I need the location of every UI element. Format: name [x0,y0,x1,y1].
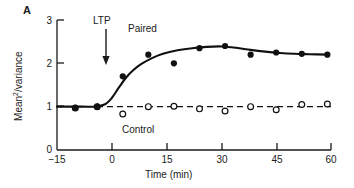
x-tick-label-30: 30 [207,155,237,165]
control-data-point [145,104,151,110]
control-data-point [248,104,254,110]
x-tick-label-45: 45 [262,155,292,165]
ltp-arrow-icon [102,29,109,65]
y-tick-label-1: 1 [38,102,52,112]
x-tick-label-0: 0 [97,155,127,165]
x-tick-label-minus15: −15 [42,155,72,165]
paired-data-point [273,49,279,55]
paired-data-point [299,51,305,57]
paired-data-point [248,52,254,58]
y-tick-label-2: 2 [38,59,52,69]
control-data-point [197,106,203,112]
paired-data-point [324,52,330,58]
control-data-point [222,108,228,114]
x-axis-ticks [112,143,331,150]
y-tick-label-3: 3 [38,16,52,26]
paired-data-point [94,104,100,110]
paired-data-point [171,60,177,66]
control-data-point [171,103,177,109]
series-label-paired: Paired [128,24,157,34]
y-axis-title: Mean2/variance [12,36,24,136]
paired-data-point [222,43,228,49]
y-axis-title-superscript: 2 [12,92,19,96]
y-axis-title-prefix: Mean [13,96,24,121]
axis-lines [57,20,331,150]
control-data-points [72,101,330,117]
control-data-point [120,111,126,117]
control-data-point [273,107,279,113]
paired-data-point [120,73,126,79]
y-axis-ticks [57,20,64,106]
paired-curve [57,46,327,106]
paired-data-point [72,105,78,111]
control-data-point [324,101,330,107]
control-data-point [299,102,305,108]
x-tick-label-60: 60 [316,155,346,165]
series-label-control: Control [122,125,154,135]
paired-data-point [196,45,202,51]
y-axis-title-suffix: /variance [13,51,24,92]
paired-data-point [145,52,151,58]
ltp-event-label: LTP [93,16,111,26]
x-tick-label-15: 15 [152,155,182,165]
x-axis-title: Time (min) [145,170,192,180]
figure-panel-a: A [0,0,354,188]
